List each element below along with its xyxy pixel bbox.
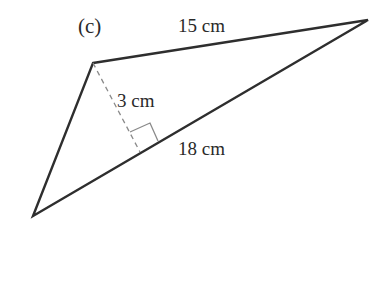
base-side-label: 18 cm [178,138,225,159]
top-side-label: 15 cm [178,15,225,36]
triangle [33,20,368,216]
figure-label: (c) [78,14,101,38]
right-angle-mark [130,123,158,141]
triangle-diagram: (c) 15 cm 3 cm 18 cm [0,0,385,297]
height-label: 3 cm [117,90,155,111]
